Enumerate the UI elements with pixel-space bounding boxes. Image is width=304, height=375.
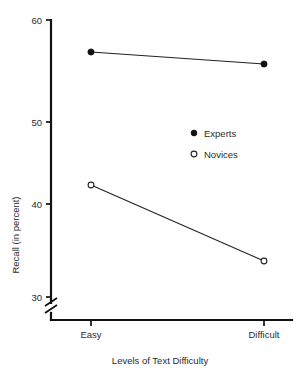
x-axis-title: Levels of Text Difficulty [112,355,209,366]
series-experts [88,49,267,67]
y-axis-title: Recall (in percent) [10,196,21,273]
y-tick-label-30: 30 [31,292,42,303]
series-experts-point-easy [88,49,94,55]
x-tick-label-easy: Easy [80,329,101,340]
series-experts-point-difficult [261,61,267,67]
legend-open-circle-icon [191,151,197,157]
x-tick-label-difficult: Difficult [249,329,280,340]
y-tick-label-50: 50 [31,117,42,128]
legend-label-experts: Experts [204,128,236,139]
series-novices-point-easy [88,182,94,188]
x-axis [51,313,292,320]
line-chart: 60 50 40 30 Recall (in percent) Easy Dif… [0,0,304,375]
legend-label-novices: Novices [204,149,238,160]
chart-legend: Experts Novices [191,128,238,160]
y-tick-label-60: 60 [31,15,42,26]
chart-canvas: 60 50 40 30 Recall (in percent) Easy Dif… [0,0,304,375]
y-tick-label-40: 40 [31,199,42,210]
series-experts-line [91,52,264,64]
legend-entry-experts: Experts [191,128,236,139]
series-novices-point-difficult [261,258,267,264]
legend-entry-novices: Novices [191,149,238,160]
series-novices [88,182,267,264]
legend-filled-circle-icon [191,130,197,136]
series-novices-line [91,185,264,261]
